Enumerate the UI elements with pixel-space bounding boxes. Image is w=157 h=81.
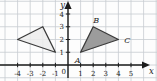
y-tick-label: 4 [60,11,65,19]
x-tick-label: -1 [52,70,59,78]
x-tick-label: 4 [116,70,121,78]
geometry-figure: -4-3-2-11234512340xyABC [0,0,157,81]
y-tick-label: 2 [60,36,64,44]
x-tick-label: -2 [39,70,46,78]
x-tick-label: -3 [27,70,34,78]
vertex-label-b: B [92,16,99,25]
vertex-label-c: C [124,36,130,45]
y-axis-label: y [59,0,65,10]
vertex-label-a: A [74,56,81,65]
x-tick-label: 5 [129,70,133,78]
x-axis-label: x [149,66,154,76]
x-tick-label: 1 [78,70,82,78]
y-tick-label: 3 [60,23,64,31]
y-tick-label: 1 [60,49,64,57]
origin-label: 0 [62,68,66,76]
coordinate-plane: -4-3-2-11234512340xyABC [0,0,157,81]
x-tick-label: -4 [14,70,21,78]
x-tick-label: 2 [91,70,95,78]
x-tick-label: 3 [104,70,108,78]
